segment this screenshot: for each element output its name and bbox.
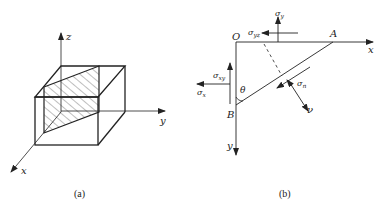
point-b-label: B [226, 109, 234, 120]
theta-angle-arc [236, 97, 243, 101]
caption-b: (b) [279, 188, 291, 200]
sigma-yz-label: σyz [248, 28, 261, 39]
z-axis-label: z [65, 31, 72, 42]
sigma-x-label: σx [197, 88, 206, 98]
figure-a-cube: z y x (a) [11, 31, 166, 200]
x-axis-label: x [21, 165, 27, 176]
inclined-face-ab [236, 42, 333, 105]
x-axis-label-b: x [368, 44, 374, 55]
origin-label: O [232, 31, 240, 42]
caption-a: (a) [74, 188, 85, 200]
y-axis-label: y [159, 115, 166, 126]
dashed-normal-line [264, 44, 282, 76]
point-a-label: A [329, 28, 337, 39]
figure-b-element: O A B x y θ ν σy σyz σxy σx σn (b) [197, 9, 374, 200]
theta-label: θ [240, 85, 246, 95]
sigma-n-label: σn [297, 79, 306, 89]
diagram-canvas: z y x (a) O A B x y θ ν σy [0, 0, 383, 207]
sigma-y-label: σy [275, 9, 284, 20]
nu-label: ν [307, 104, 313, 115]
sigma-xy-label: σxy [213, 71, 226, 82]
sigma-n-arrow [287, 80, 292, 86]
x-axis [11, 112, 61, 172]
y-axis-label-b: y [226, 140, 233, 151]
